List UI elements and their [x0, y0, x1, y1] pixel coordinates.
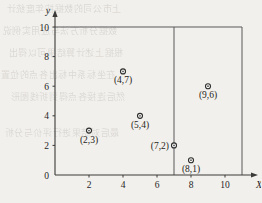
y-tick-label: 4 — [44, 111, 49, 121]
x-tick-label: 10 — [220, 180, 230, 190]
data-point — [87, 128, 92, 133]
y-tick-label: 10 — [40, 23, 50, 33]
data-point-center — [122, 71, 124, 73]
data-point-center — [173, 145, 175, 147]
data-point-label: (2,3) — [80, 135, 98, 146]
y-tick-label: 2 — [44, 141, 49, 151]
data-point — [138, 113, 143, 118]
tick-and-axis-labels: 2468100246810Xy — [40, 5, 262, 190]
x-axis-label: X — [255, 179, 261, 190]
x-tick-label: 6 — [155, 180, 160, 190]
scatter-plot: (2,3)(4,7)(5,4)(7,2)(8,1)(9,6) 246810024… — [0, 0, 261, 203]
y-tick-label: 6 — [44, 82, 49, 92]
data-point-center — [88, 130, 90, 132]
y-axis-label: y — [45, 5, 51, 16]
plot-axes — [52, 10, 258, 178]
data-point-label: (9,6) — [199, 90, 217, 101]
data-point-label: (7,2) — [151, 141, 169, 152]
axis-ticks — [53, 27, 226, 178]
y-tick-label: 8 — [44, 52, 49, 62]
data-point-center — [207, 85, 209, 87]
data-point-label: (4,7) — [114, 75, 132, 86]
data-point-label: (8,1) — [182, 164, 200, 175]
x-tick-label: 4 — [121, 180, 126, 190]
data-point — [172, 143, 177, 148]
data-points: (2,3)(4,7)(5,4)(7,2)(8,1)(9,6) — [80, 69, 217, 175]
plot-frame — [55, 27, 242, 175]
data-point — [189, 158, 194, 163]
data-point — [206, 84, 211, 89]
y-axis-arrow — [52, 10, 57, 17]
data-point-label: (5,4) — [131, 120, 149, 131]
x-tick-label: 8 — [189, 180, 194, 190]
data-point — [121, 69, 126, 74]
x-axis-arrow — [251, 172, 258, 177]
data-point-center — [139, 115, 141, 117]
y-tick-label: 0 — [44, 171, 49, 181]
data-point-center — [190, 159, 192, 161]
x-tick-label: 2 — [87, 180, 92, 190]
